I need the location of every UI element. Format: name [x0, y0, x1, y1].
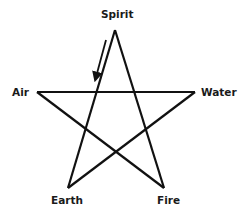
edge-fire-air	[37, 92, 164, 188]
edge-earth-spirit	[68, 30, 115, 188]
label-fire: Fire	[157, 195, 180, 206]
label-water: Water	[201, 87, 237, 98]
label-earth: Earth	[51, 195, 83, 206]
edge-water-earth	[68, 92, 195, 188]
direction-arrow-icon	[96, 40, 106, 77]
pentagram-star	[37, 30, 195, 188]
pentagram-diagram	[0, 0, 248, 215]
label-spirit: Spirit	[101, 9, 133, 20]
label-air: Air	[12, 87, 29, 98]
edge-spirit-fire	[115, 30, 164, 188]
